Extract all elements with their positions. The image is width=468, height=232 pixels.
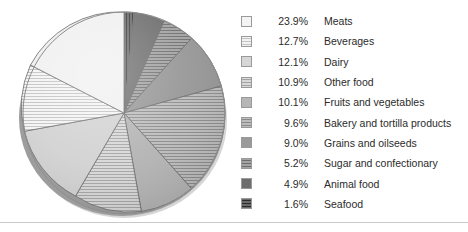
legend-label: Fruits and vegetables — [324, 96, 424, 108]
swatch-fruits-and-vegetables-icon — [241, 97, 252, 108]
legend-label: Animal food — [324, 178, 379, 190]
legend: 23.9% Meats 12.7% Beverages 12.1% Dairy — [241, 11, 465, 214]
legend-label: Bakery and tortilla products — [324, 117, 451, 129]
legend-percent: 12.1% — [260, 56, 308, 68]
legend-label: Meats — [324, 15, 353, 27]
swatch-other-food-icon — [241, 77, 252, 88]
legend-item-sugar-and-confectionary[interactable]: 5.2% Sugar and confectionary — [241, 153, 465, 173]
swatch-meats-icon — [241, 16, 252, 27]
swatch-bakery-and-tortilla-products-icon — [241, 117, 252, 128]
pie-chart-figure: 23.9% Meats 12.7% Beverages 12.1% Dairy — [0, 0, 468, 232]
legend-percent: 10.1% — [260, 96, 308, 108]
swatch-seafood-icon — [241, 198, 252, 209]
legend-item-bakery-and-tortilla-products[interactable]: 9.6% Bakery and tortilla products — [241, 112, 465, 132]
swatch-beverages-icon — [241, 36, 252, 47]
legend-label: Grains and oilseeds — [324, 137, 417, 149]
legend-percent: 9.0% — [260, 137, 308, 149]
swatch-sugar-and-confectionary-icon — [241, 158, 252, 169]
swatch-dairy-icon — [241, 56, 252, 67]
legend-label: Dairy — [324, 56, 349, 68]
legend-item-dairy[interactable]: 12.1% Dairy — [241, 52, 465, 72]
legend-item-beverages[interactable]: 12.7% Beverages — [241, 31, 465, 51]
legend-percent: 12.7% — [260, 35, 308, 47]
legend-item-other-food[interactable]: 10.9% Other food — [241, 72, 465, 92]
pie-svg — [0, 0, 236, 226]
legend-percent: 23.9% — [260, 15, 308, 27]
legend-label: Beverages — [324, 35, 374, 47]
legend-label: Seafood — [324, 198, 363, 210]
legend-item-fruits-and-vegetables[interactable]: 10.1% Fruits and vegetables — [241, 92, 465, 112]
swatch-grains-and-oilseeds-icon — [241, 137, 252, 148]
legend-item-seafood[interactable]: 1.6% Seafood — [241, 194, 465, 214]
legend-percent: 4.9% — [260, 178, 308, 190]
legend-percent: 5.2% — [260, 157, 308, 169]
swatch-animal-food-icon — [241, 178, 252, 189]
pie-gloss-overlay — [23, 12, 225, 214]
legend-percent: 10.9% — [260, 76, 308, 88]
legend-percent: 9.6% — [260, 117, 308, 129]
legend-item-grains-and-oilseeds[interactable]: 9.0% Grains and oilseeds — [241, 133, 465, 153]
legend-percent: 1.6% — [260, 198, 308, 210]
legend-label: Other food — [324, 76, 374, 88]
legend-item-animal-food[interactable]: 4.9% Animal food — [241, 173, 465, 193]
legend-item-meats[interactable]: 23.9% Meats — [241, 11, 465, 31]
pie-chart-graphic — [0, 0, 236, 226]
bottom-divider — [0, 222, 468, 223]
legend-label: Sugar and confectionary — [324, 157, 438, 169]
